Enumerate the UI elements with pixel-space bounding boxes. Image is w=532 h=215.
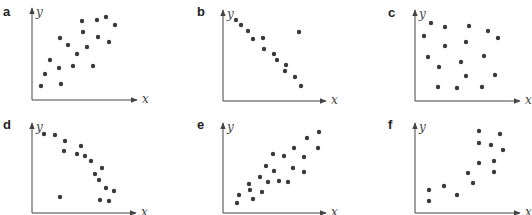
data-point (83, 154, 87, 158)
data-point (264, 164, 268, 168)
data-point (42, 132, 46, 136)
data-point (113, 23, 117, 27)
data-point (79, 144, 83, 148)
data-point (429, 21, 433, 25)
data-point (97, 178, 101, 182)
data-point (62, 149, 66, 153)
panel-label: c (388, 5, 395, 20)
data-point (85, 45, 89, 49)
data-point (302, 155, 306, 159)
data-point (91, 64, 95, 68)
data-point (466, 171, 470, 175)
data-point (443, 25, 447, 29)
data-point (112, 189, 116, 193)
data-point (275, 58, 279, 62)
panel-e: eyx (197, 117, 338, 215)
data-point (48, 58, 52, 62)
data-point (80, 19, 84, 23)
data-point (96, 35, 100, 39)
data-point (239, 23, 243, 27)
y-axis-label: y (226, 7, 234, 21)
data-point (234, 18, 238, 22)
data-point (305, 136, 309, 140)
panel-a: ayx (3, 4, 149, 106)
y-axis-label: y (418, 120, 426, 134)
data-point (292, 146, 296, 150)
data-point (492, 170, 496, 174)
x-axis-label: x (141, 205, 148, 215)
data-point (75, 152, 79, 156)
data-point (437, 65, 441, 69)
data-point (422, 34, 426, 38)
x-axis-label: x (142, 92, 149, 106)
data-point (477, 161, 481, 165)
data-point (316, 146, 320, 150)
data-point (489, 143, 493, 147)
data-point (251, 37, 255, 41)
data-point (467, 24, 471, 28)
data-point (486, 29, 490, 33)
y-axis-label: y (35, 120, 43, 134)
data-point (317, 130, 321, 134)
data-point (235, 201, 239, 205)
data-point (482, 54, 486, 58)
data-point (246, 29, 250, 33)
data-point (498, 132, 502, 136)
data-point (477, 141, 481, 145)
data-point (277, 179, 281, 183)
data-point (286, 180, 290, 184)
data-point (501, 148, 505, 152)
data-point (477, 129, 481, 133)
data-point (58, 36, 62, 40)
data-point (260, 190, 264, 194)
data-point (442, 184, 446, 188)
data-point (237, 193, 241, 197)
y-axis-label: y (418, 7, 426, 21)
data-point (262, 47, 266, 51)
x-axis-label: x (331, 205, 338, 215)
data-point (272, 52, 276, 56)
data-point (427, 199, 431, 203)
y-axis-label: y (35, 5, 43, 19)
data-point (59, 82, 63, 86)
panel-label: e (197, 117, 204, 132)
data-point (75, 52, 79, 56)
panel-f: fyx (388, 117, 532, 215)
data-point (107, 40, 111, 44)
data-point (492, 159, 496, 163)
data-point (293, 75, 297, 79)
data-point (266, 180, 270, 184)
panel-b: byx (197, 4, 338, 107)
data-point (247, 182, 251, 186)
data-point (493, 73, 497, 77)
data-point (261, 36, 265, 40)
scatter-plot-grid: ayxbyxcyxdyxeyxfyx (0, 0, 532, 215)
data-point (63, 139, 67, 143)
data-point (272, 169, 276, 173)
data-point (104, 15, 108, 19)
data-point (471, 181, 475, 185)
data-point (258, 175, 262, 179)
data-point (282, 154, 286, 158)
data-point (271, 152, 275, 156)
data-point (297, 30, 301, 34)
data-point (93, 172, 97, 176)
data-point (39, 84, 43, 88)
panel-label: d (3, 117, 11, 132)
panel-label: a (3, 4, 11, 19)
data-point (251, 197, 255, 201)
data-point (427, 188, 431, 192)
data-point (443, 44, 447, 48)
data-point (459, 60, 463, 64)
panel-c: cyx (388, 5, 532, 107)
data-point (107, 199, 111, 203)
x-axis-label: x (525, 93, 532, 107)
data-point (283, 69, 287, 73)
x-axis-label: x (331, 93, 338, 107)
data-point (464, 40, 468, 44)
data-point (104, 186, 108, 190)
x-axis-label: x (525, 205, 532, 215)
data-point (291, 166, 295, 170)
data-point (57, 66, 61, 70)
panel-d: dyx (3, 117, 148, 215)
